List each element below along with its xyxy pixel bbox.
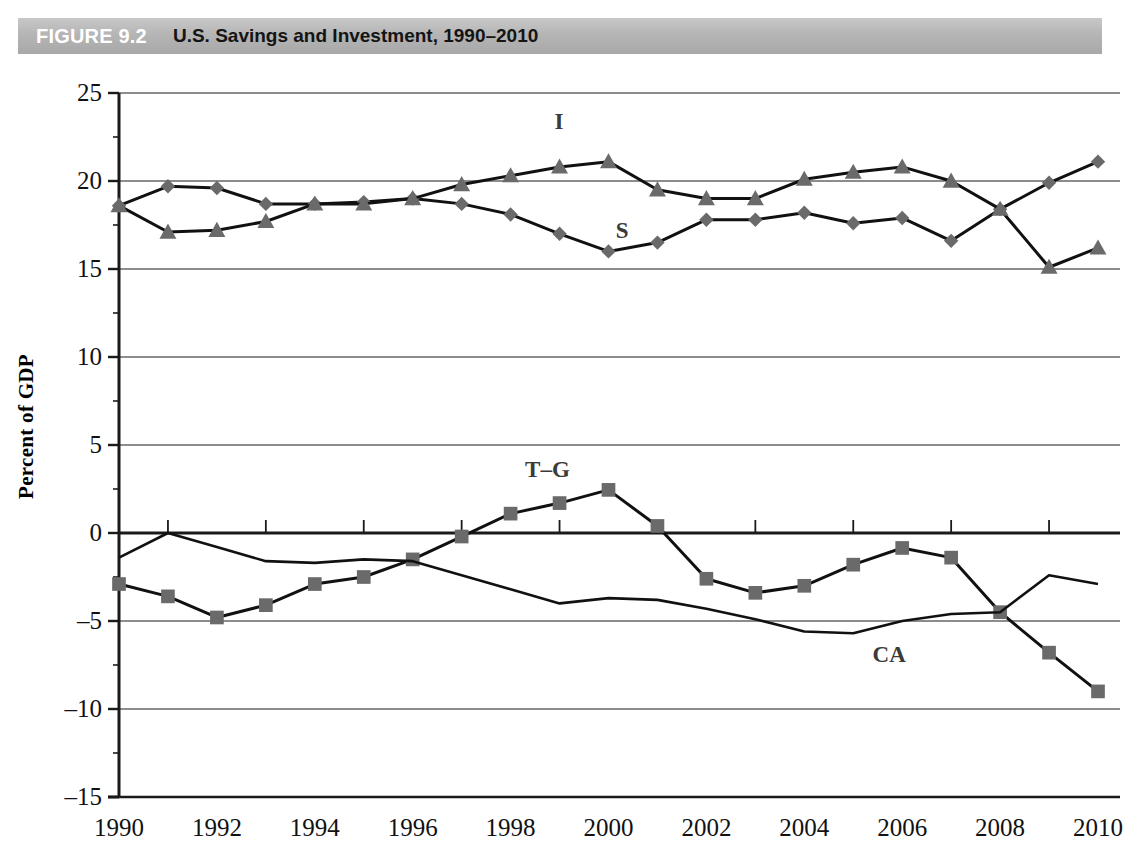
data-point-marker (846, 216, 860, 230)
data-point-marker (504, 507, 518, 521)
data-point-marker (161, 590, 175, 604)
data-point-marker (503, 207, 517, 221)
data-point-marker (454, 197, 468, 211)
series-label-s: S (616, 218, 629, 244)
data-point-marker (1042, 646, 1056, 660)
data-point-marker (600, 153, 617, 168)
data-point-marker (553, 496, 567, 510)
data-point-marker (895, 541, 909, 555)
data-point-marker (602, 483, 616, 497)
data-point-marker (1090, 239, 1107, 254)
data-point-marker (308, 577, 322, 591)
data-point-marker (210, 181, 224, 195)
data-point-marker (649, 181, 666, 196)
data-point-marker (797, 205, 811, 219)
series-s (112, 154, 1105, 258)
data-point-marker (895, 211, 909, 225)
chart-container: Percent of GDP 2520151050–5–10–15 199019… (0, 56, 1120, 861)
data-point-marker (552, 227, 566, 241)
data-point-marker (894, 158, 911, 173)
data-point-marker (846, 558, 860, 572)
data-point-marker (748, 213, 762, 227)
figure-header-band: FIGURE 9.2 U.S. Savings and Investment, … (18, 18, 1102, 54)
data-point-marker (357, 570, 371, 584)
data-point-marker (210, 611, 224, 625)
data-point-marker (700, 572, 714, 586)
series-label-t-g: T–G (525, 457, 570, 483)
data-point-marker (1091, 685, 1105, 699)
data-point-marker (1042, 176, 1056, 190)
data-point-marker (406, 553, 420, 567)
data-point-marker (259, 197, 273, 211)
series-line (119, 533, 1098, 633)
data-point-marker (749, 586, 763, 600)
data-point-marker (112, 577, 126, 591)
figure-title: U.S. Savings and Investment, 1990–2010 (173, 25, 538, 47)
data-point-marker (455, 530, 469, 544)
data-point-marker (650, 235, 664, 249)
data-point-marker (651, 519, 665, 533)
data-point-marker (699, 213, 713, 227)
data-point-marker (797, 579, 811, 593)
data-point-marker (1091, 154, 1105, 168)
series-ca (119, 533, 1098, 633)
data-point-marker (944, 551, 958, 565)
series-label-i: I (554, 109, 563, 135)
series-t-g (112, 483, 1105, 698)
data-point-marker (601, 244, 615, 258)
series-label-ca: CA (873, 642, 906, 668)
figure-number: FIGURE 9.2 (36, 25, 147, 48)
data-point-marker (259, 598, 273, 612)
